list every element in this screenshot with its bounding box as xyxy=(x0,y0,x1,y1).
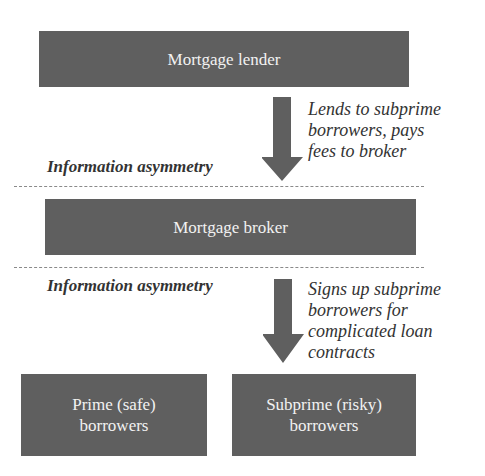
upper-dashed-boundary xyxy=(14,186,424,187)
arrow-down-icon xyxy=(263,279,305,364)
note-line: Lends to subprime xyxy=(308,99,441,120)
prime-borrowers-node: Prime (safe) borrowers xyxy=(21,374,207,456)
note-line: contracts xyxy=(308,342,441,363)
broker-to-subprime-note: Signs up subprime borrowers for complica… xyxy=(308,279,441,363)
information-asymmetry-lower-label: Information asymmetry xyxy=(47,276,213,296)
note-line: fees to broker xyxy=(308,141,441,162)
note-line: complicated loan xyxy=(308,321,441,342)
note-line: borrowers for xyxy=(308,300,441,321)
note-line: borrowers, pays xyxy=(308,120,441,141)
information-asymmetry-upper-label: Information asymmetry xyxy=(47,157,213,177)
prime-borrowers-line2: borrowers xyxy=(80,415,149,436)
mortgage-lender-label: Mortgage lender xyxy=(168,49,281,70)
prime-borrowers-line1: Prime (safe) xyxy=(72,394,156,415)
lender-to-broker-note: Lends to subprime borrowers, pays fees t… xyxy=(308,99,441,162)
mortgage-broker-node: Mortgage broker xyxy=(45,199,416,255)
subprime-borrowers-node: Subprime (risky) borrowers xyxy=(232,374,416,456)
mortgage-lender-node: Mortgage lender xyxy=(39,31,409,87)
subprime-borrowers-line2: borrowers xyxy=(290,415,359,436)
mortgage-broker-label: Mortgage broker xyxy=(173,217,288,238)
arrow-down-icon xyxy=(262,97,304,182)
subprime-borrowers-line1: Subprime (risky) xyxy=(266,394,382,415)
lower-dashed-boundary xyxy=(14,267,424,268)
note-line: Signs up subprime xyxy=(308,279,441,300)
